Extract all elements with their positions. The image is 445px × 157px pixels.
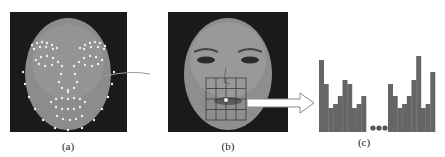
- histogram-bar: [412, 80, 417, 132]
- histogram-chart: [316, 50, 441, 135]
- histogram-bar: [338, 96, 343, 132]
- histogram-bar: [352, 108, 357, 132]
- caption-c: (c): [344, 136, 384, 148]
- histogram-bar: [388, 84, 393, 132]
- histogram-bar: [319, 60, 324, 132]
- caption-b: (b): [208, 140, 248, 152]
- panel-b: (b): [168, 12, 288, 132]
- face-image-grid: [168, 12, 288, 132]
- ellipsis-dot: [376, 125, 381, 130]
- histogram-bar: [397, 108, 402, 132]
- ellipsis-dot: [370, 125, 375, 130]
- histogram-bar: [328, 108, 333, 132]
- histogram-bar: [333, 104, 338, 132]
- histogram-bar: [347, 84, 352, 132]
- histogram-bar: [426, 104, 431, 132]
- ellipsis-dot: [382, 125, 387, 130]
- histogram-bar: [343, 80, 348, 132]
- histogram-bar: [416, 56, 421, 132]
- histogram-bar: [402, 104, 407, 132]
- histogram-bar: [361, 96, 366, 132]
- panel-a: (a): [10, 12, 127, 132]
- caption-a: (a): [48, 140, 88, 152]
- face-grid-drawing: [168, 12, 288, 132]
- histogram-bar: [430, 72, 435, 132]
- histogram-bar: [393, 96, 398, 132]
- histogram-bar: [324, 84, 329, 132]
- histogram-bar: [421, 108, 426, 132]
- face-landmarks-drawing: [10, 12, 127, 132]
- panel-c: (c): [316, 50, 441, 150]
- histogram-bar: [357, 104, 362, 132]
- face-image-landmarks: [10, 12, 127, 132]
- histogram-bar: [407, 96, 412, 132]
